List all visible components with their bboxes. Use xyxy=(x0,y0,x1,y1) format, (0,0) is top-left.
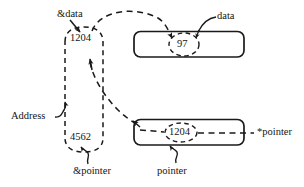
pointer-leader xyxy=(170,146,177,163)
data-leader xyxy=(196,17,216,38)
value-97: 97 xyxy=(177,39,188,50)
data-memory-box xyxy=(134,32,244,58)
label-address: Address xyxy=(11,111,45,122)
value-pointer-address: 4562 xyxy=(70,132,91,143)
diagram-graphics xyxy=(0,0,304,187)
label-star-pointer: *pointer xyxy=(257,127,292,138)
pointer-cell-left-dashes xyxy=(140,130,164,132)
arrow-address-to-data xyxy=(92,11,172,38)
pointer-diagram: &data 1204 4562 Address &pointer data 97… xyxy=(0,0,304,187)
arrow-pointer-value-to-address xyxy=(90,59,140,127)
label-amp-data: &data xyxy=(57,9,83,20)
value-1204-cell: 1204 xyxy=(169,127,190,138)
value-data-address: 1204 xyxy=(70,33,91,44)
label-data: data xyxy=(217,11,235,22)
amp-pointer-leader xyxy=(81,147,89,164)
label-pointer: pointer xyxy=(157,166,187,177)
amp-data-leader xyxy=(70,20,80,32)
label-amp-pointer: &pointer xyxy=(73,166,111,177)
address-leader xyxy=(55,102,66,117)
